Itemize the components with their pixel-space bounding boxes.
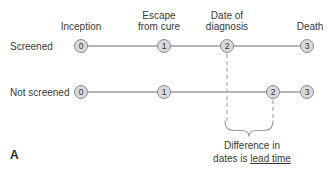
node-not-screened-death: 3 [300,85,314,99]
row-label-screened: Screened [10,41,53,52]
node-not-screened-inception: 0 [74,85,88,99]
annotation-line1: Difference in [213,139,291,152]
annotation-lead-time-term: lead time [250,153,291,164]
node-screened-inception: 0 [74,39,88,53]
milestone-label-escape-from-cure: Escape from cure [138,10,180,32]
node-screened-escape-from-cure: 1 [157,39,171,53]
lead-time-brace [225,121,273,137]
node-not-screened-diagnosis: 2 [266,85,280,99]
milestone-label-date-of-diagnosis: Date of diagnosis [206,10,248,32]
node-screened-death: 3 [300,39,314,53]
node-not-screened-escape-from-cure: 1 [157,85,171,99]
row-label-not-screened: Not screened [10,87,69,98]
annotation-line2-prefix: dates is [213,153,250,164]
lead-time-annotation: Difference in dates is lead time [213,139,291,165]
milestone-label-death: Death [297,21,324,32]
annotation-line2: dates is lead time [213,152,291,165]
lead-time-diagram: Inception Escape from cure Date of diagn… [0,0,330,174]
panel-label: A [10,148,19,162]
milestone-label-inception: Inception [61,21,102,32]
node-screened-diagnosis: 2 [220,39,234,53]
